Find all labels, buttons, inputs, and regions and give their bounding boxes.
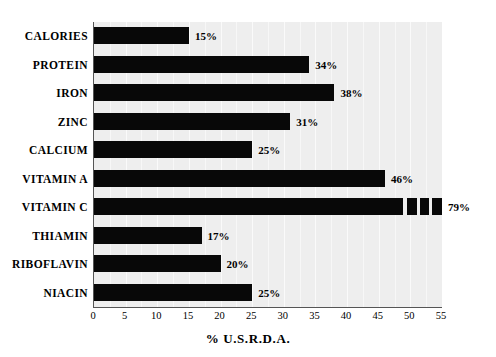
x-tick-label: 0 — [90, 310, 95, 321]
x-tick-label: 20 — [214, 310, 225, 321]
x-tick-label: 30 — [278, 310, 289, 321]
x-tick-label: 40 — [341, 310, 352, 321]
category-label: NIACIN — [43, 279, 88, 308]
category-axis-labels: CALORIESPROTEINIRONZINCCALCIUMVITAMIN AV… — [0, 22, 88, 307]
bar-value-label: 15% — [195, 22, 217, 51]
category-label: VITAMIN A — [22, 165, 88, 194]
bar-value-label: 25% — [258, 279, 280, 308]
bar-value-label: 25% — [258, 136, 280, 165]
bar-row: 25% — [94, 279, 442, 308]
bar[interactable] — [94, 56, 309, 73]
bar[interactable] — [94, 255, 221, 272]
x-tick-label: 15 — [183, 310, 194, 321]
bar-row: 38% — [94, 79, 442, 108]
bar-value-label: 79% — [448, 193, 470, 222]
bar-row: 17% — [94, 222, 442, 251]
bar[interactable] — [94, 227, 202, 244]
x-tick-label: 25 — [246, 310, 257, 321]
bar-value-label: 46% — [391, 165, 413, 194]
bar-rows: 15%34%38%31%25%46%79%17%20%25% — [94, 22, 442, 307]
bar-row: 25% — [94, 136, 442, 165]
category-label: CALCIUM — [29, 136, 88, 165]
x-tick-label: 35 — [309, 310, 320, 321]
bar-row: 20% — [94, 250, 442, 279]
bar-row: 46% — [94, 165, 442, 194]
bar-value-label: 31% — [296, 108, 318, 137]
x-axis-title: % U.S.R.D.A. — [0, 331, 496, 347]
x-tick-label: 10 — [151, 310, 162, 321]
bar-row: 31% — [94, 108, 442, 137]
bar-value-label: 34% — [315, 51, 337, 80]
category-label: VITAMIN C — [22, 193, 88, 222]
bar-row: 34% — [94, 51, 442, 80]
bar-value-label: 38% — [340, 79, 362, 108]
bar-chart: CALORIESPROTEINIRONZINCCALCIUMVITAMIN AV… — [0, 0, 496, 357]
category-label: CALORIES — [25, 22, 88, 51]
bar-segment — [420, 198, 429, 215]
x-tick-label: 50 — [404, 310, 415, 321]
bar-segment — [94, 198, 403, 215]
bar-value-label: 20% — [227, 250, 249, 279]
bar-row: 79% — [94, 193, 442, 222]
x-tick-label: 55 — [436, 310, 447, 321]
bar[interactable] — [94, 113, 290, 130]
category-label: ZINC — [58, 108, 88, 137]
category-label: RIBOFLAVIN — [12, 250, 88, 279]
category-label: IRON — [56, 79, 88, 108]
bar-row: 15% — [94, 22, 442, 51]
bar[interactable] — [94, 141, 252, 158]
bar[interactable] — [94, 170, 385, 187]
category-label: THIAMIN — [32, 222, 88, 251]
bar-segment — [432, 198, 442, 215]
x-tick-label: 45 — [372, 310, 383, 321]
category-label: PROTEIN — [33, 51, 88, 80]
plot-area: 15%34%38%31%25%46%79%17%20%25% — [93, 22, 442, 308]
bar-segment — [407, 198, 417, 215]
bar[interactable] — [94, 84, 334, 101]
bar[interactable] — [94, 284, 252, 301]
bar-value-label: 17% — [208, 222, 230, 251]
bar[interactable] — [94, 27, 189, 44]
bar[interactable] — [94, 198, 442, 215]
x-tick-label: 5 — [122, 310, 127, 321]
